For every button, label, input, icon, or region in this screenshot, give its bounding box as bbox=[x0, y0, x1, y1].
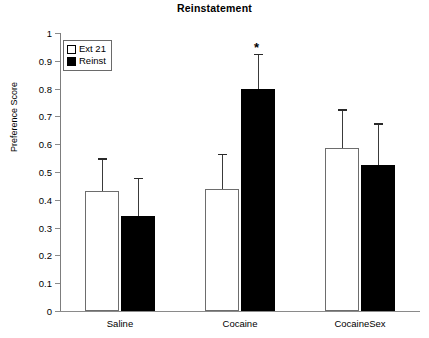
y-axis-tick-label: 0.6 bbox=[10, 140, 52, 150]
x-axis-label-saline: Saline bbox=[60, 318, 180, 329]
error-bar-cap bbox=[98, 158, 107, 160]
legend-swatch-filled-icon bbox=[67, 57, 76, 66]
legend-swatch-open-icon bbox=[67, 45, 76, 54]
y-axis-tick-label: 0 bbox=[10, 307, 52, 317]
error-bar-cap bbox=[374, 123, 383, 125]
error-bar bbox=[138, 178, 139, 217]
legend-item-reinst: Reinst bbox=[67, 55, 106, 67]
y-axis-tick bbox=[55, 311, 60, 312]
x-axis-label-cocainesex: CocaineSex bbox=[300, 318, 420, 329]
y-axis-tick-label: 0.2 bbox=[10, 251, 52, 261]
error-bar-cap bbox=[218, 154, 227, 156]
legend-label-ext21: Ext 21 bbox=[79, 43, 106, 55]
chart-title: Reinstatement bbox=[0, 2, 429, 14]
error-bar bbox=[258, 54, 259, 89]
error-bar-cap bbox=[134, 178, 143, 180]
error-bar bbox=[222, 154, 223, 189]
chart-legend: Ext 21 Reinst bbox=[63, 40, 112, 71]
error-bar-cap bbox=[338, 109, 347, 111]
chart-figure: Reinstatement Preference Score 10.90.80.… bbox=[0, 0, 429, 338]
y-axis-tick-label: 0.9 bbox=[10, 57, 52, 67]
y-axis-tick-label: 0.1 bbox=[10, 279, 52, 289]
y-axis-tick-label: 0.3 bbox=[10, 224, 52, 234]
error-bar bbox=[342, 109, 343, 148]
significance-marker: * bbox=[254, 41, 259, 54]
error-bar bbox=[102, 158, 103, 191]
bar-saline-reinst bbox=[121, 216, 155, 311]
x-axis-label-cocaine: Cocaine bbox=[180, 318, 300, 329]
y-axis-tick-label: 0.7 bbox=[10, 112, 52, 122]
y-axis-tick-label: 0.4 bbox=[10, 196, 52, 206]
bar-cocainesex-ext21 bbox=[325, 148, 359, 311]
bar-cocaine-ext21 bbox=[205, 189, 239, 311]
bar-cocainesex-reinst bbox=[361, 165, 395, 311]
legend-item-ext21: Ext 21 bbox=[67, 43, 106, 55]
bar-cocaine-reinst bbox=[241, 89, 275, 311]
y-axis-tick-label: 0.5 bbox=[10, 168, 52, 178]
y-axis-tick-label: 1 bbox=[10, 29, 52, 39]
plot-area: * bbox=[60, 33, 420, 311]
y-axis-tick-label: 0.8 bbox=[10, 85, 52, 95]
legend-label-reinst: Reinst bbox=[79, 55, 106, 67]
error-bar bbox=[378, 123, 379, 165]
x-axis-line bbox=[60, 311, 420, 312]
bar-saline-ext21 bbox=[85, 191, 119, 311]
